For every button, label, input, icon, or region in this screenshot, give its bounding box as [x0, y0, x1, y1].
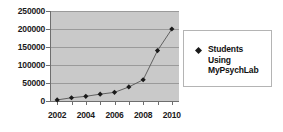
chart-legend: Students Using MyPsychLab — [183, 30, 272, 87]
y-axis-tick-label: 50000 — [22, 78, 45, 88]
x-axis-tick-label: 2004 — [71, 110, 101, 120]
y-axis-tick-label: 250000 — [18, 6, 45, 16]
x-axis-tick-label: 2002 — [42, 110, 72, 120]
x-axis-tick-label: 2006 — [100, 110, 130, 120]
data-point-marker — [126, 84, 131, 89]
diamond-marker-icon — [191, 47, 205, 54]
data-point-marker — [112, 90, 117, 95]
data-point-marker — [69, 95, 74, 100]
data-point-marker — [141, 77, 146, 82]
legend-label-line-1: Students — [208, 44, 258, 55]
x-axis-tick-label: 2008 — [128, 110, 158, 120]
data-point-marker — [55, 97, 60, 102]
chart-container: 050000100000150000200000250000 200220042… — [0, 0, 283, 132]
y-axis-tick-label: 200000 — [18, 24, 45, 34]
data-point-marker — [169, 26, 174, 31]
y-axis-tick-label: 150000 — [18, 42, 45, 52]
data-point-marker — [155, 48, 160, 53]
legend-label-line-2: Using — [208, 55, 258, 66]
data-series-layer — [50, 11, 179, 102]
data-point-marker — [98, 92, 103, 97]
y-axis-tick-label: 100000 — [18, 60, 45, 70]
series-line — [57, 29, 172, 100]
data-point-marker — [83, 94, 88, 99]
x-axis-tick-label: 2010 — [157, 110, 187, 120]
y-axis-tick-label: 0 — [40, 96, 45, 106]
legend-entry: Students Using MyPsychLab — [184, 44, 271, 76]
legend-label: Students Using MyPsychLab — [208, 44, 258, 76]
legend-label-line-3: MyPsychLab — [208, 65, 258, 76]
